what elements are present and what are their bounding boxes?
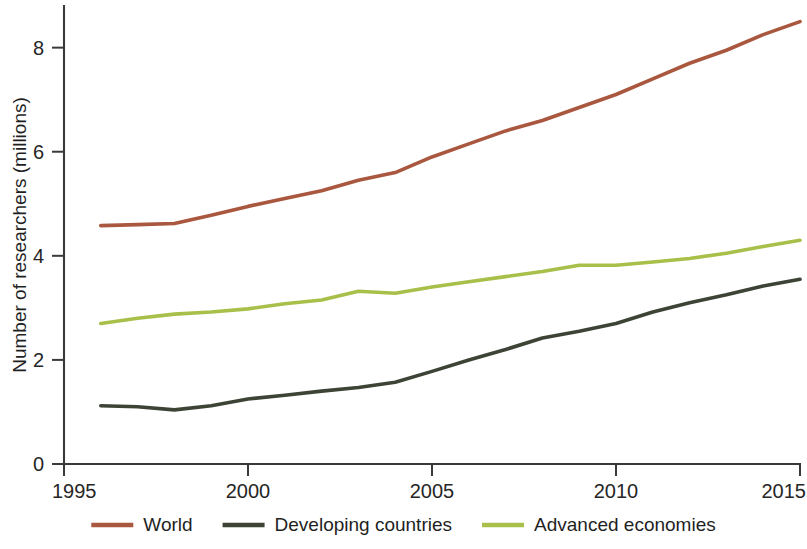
legend-label-advanced-economies: Advanced economies xyxy=(534,514,716,535)
line-chart: 02468 19952000200520102015 Number of res… xyxy=(0,0,807,549)
x-tick-label: 1995 xyxy=(52,480,97,502)
y-tick-label: 8 xyxy=(33,37,44,59)
y-axis-group: 02468 xyxy=(33,6,64,475)
series-line-world xyxy=(101,22,800,226)
y-tick-labels: 02468 xyxy=(33,37,44,475)
y-tick-marks xyxy=(52,48,64,464)
x-axis-group: 19952000200520102015 xyxy=(52,464,806,502)
x-tick-marks xyxy=(64,464,800,476)
y-tick-label: 2 xyxy=(33,349,44,371)
y-tick-label: 4 xyxy=(33,245,44,267)
chart-legend: WorldDeveloping countriesAdvanced econom… xyxy=(91,514,715,535)
legend-label-world: World xyxy=(143,514,192,535)
series-lines xyxy=(101,22,800,410)
x-tick-label: 2015 xyxy=(762,480,807,502)
x-tick-labels: 19952000200520102015 xyxy=(52,480,806,502)
chart-canvas: 02468 19952000200520102015 Number of res… xyxy=(0,0,807,549)
y-tick-label: 0 xyxy=(33,453,44,475)
y-axis-title: Number of researchers (millions) xyxy=(9,97,30,373)
series-line-advanced-economies xyxy=(101,240,800,323)
series-line-developing-countries xyxy=(101,279,800,410)
legend-label-developing-countries: Developing countries xyxy=(275,514,452,535)
y-tick-label: 6 xyxy=(33,141,44,163)
x-tick-label: 2000 xyxy=(226,480,271,502)
x-tick-label: 2005 xyxy=(410,480,455,502)
x-tick-label: 2010 xyxy=(594,480,639,502)
